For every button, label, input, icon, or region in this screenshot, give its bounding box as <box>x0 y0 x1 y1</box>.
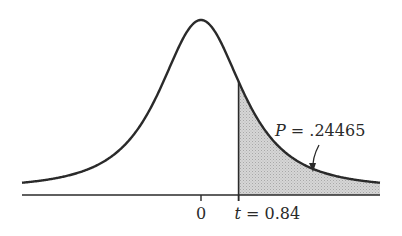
t-distribution-chart: 0t = 0.84 P = .24465 <box>0 0 402 236</box>
density-curve <box>22 20 380 183</box>
tick-label: t = 0.84 <box>235 204 301 223</box>
p-var: P <box>274 121 286 140</box>
tick-label: 0 <box>196 204 206 223</box>
p-value: = .24465 <box>286 121 366 140</box>
p-value-annotation: P = .24465 <box>274 121 365 140</box>
